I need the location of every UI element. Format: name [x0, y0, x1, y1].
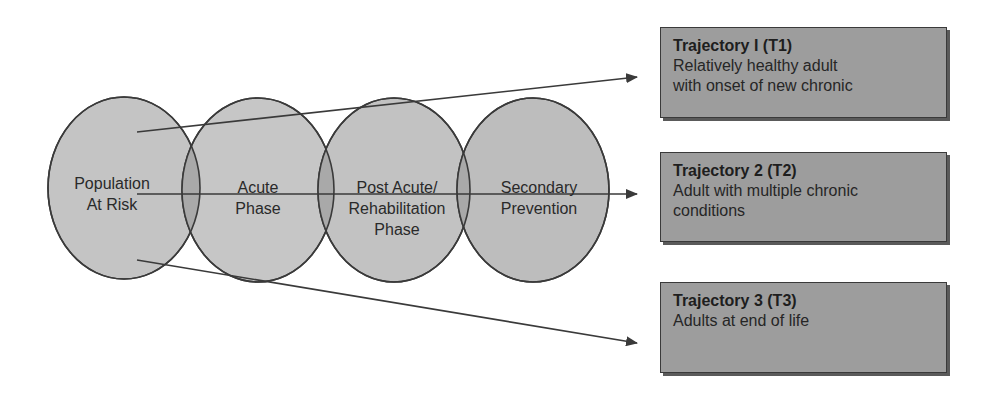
phase-label-line: Post Acute/ [349, 177, 446, 198]
phase-label-line: Phase [235, 198, 280, 219]
trajectory-description: Adult with multiple chronic [673, 181, 934, 201]
trajectory-description: Relatively healthy adult [673, 56, 934, 76]
phase-label-population: Population At Risk [74, 173, 150, 215]
trajectory-title: Trajectory I (T1) [673, 36, 934, 56]
phase-label-line: At Risk [74, 194, 150, 215]
phase-label-line: Rehabilitation [349, 198, 446, 219]
phase-label-acute: Acute Phase [235, 177, 280, 219]
trajectory-box-3: Trajectory 3 (T3) Adults at end of life [660, 282, 947, 373]
trajectory-title: Trajectory 3 (T3) [673, 291, 934, 311]
trajectory-description: conditions [673, 201, 934, 221]
phase-label-secondary: Secondary Prevention [501, 177, 578, 219]
phase-label-line: Phase [349, 219, 446, 240]
phase-label-line: Prevention [501, 198, 578, 219]
phase-label-post-acute: Post Acute/ Rehabilitation Phase [349, 177, 446, 240]
phase-label-line: Population [74, 173, 150, 194]
trajectory-description: with onset of new chronic [673, 76, 934, 96]
trajectory-box-2: Trajectory 2 (T2) Adult with multiple ch… [660, 152, 947, 242]
phase-label-line: Secondary [501, 177, 578, 198]
trajectory-title: Trajectory 2 (T2) [673, 161, 934, 181]
trajectory-box-1: Trajectory I (T1) Relatively healthy adu… [660, 27, 947, 118]
trajectory-description: Adults at end of life [673, 311, 934, 331]
phase-label-line: Acute [235, 177, 280, 198]
